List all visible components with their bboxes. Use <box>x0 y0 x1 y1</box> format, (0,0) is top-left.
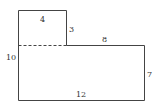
label-step-width: 8 <box>102 35 107 44</box>
shape-outline <box>19 11 145 101</box>
l-shape-diagram: 4 3 8 10 7 12 <box>0 0 159 107</box>
label-notch-height: 3 <box>69 25 74 34</box>
label-top-width: 4 <box>40 15 45 24</box>
label-bottom-width: 12 <box>76 90 86 99</box>
label-left-height: 10 <box>6 53 16 62</box>
label-right-height: 7 <box>147 70 152 79</box>
